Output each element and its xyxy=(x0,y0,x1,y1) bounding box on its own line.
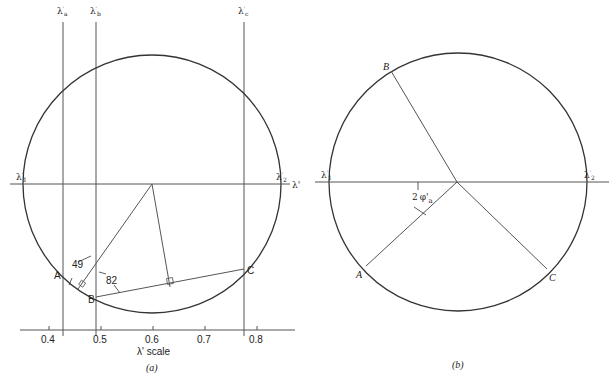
angle-label-2phi-a: 2φ'a xyxy=(412,192,433,205)
radius-line-to-chord xyxy=(78,184,152,289)
point-a-label: A xyxy=(54,270,61,281)
tick-label-0-7: 0.7 xyxy=(197,334,211,345)
label-lambda-a: λ′a xyxy=(57,5,68,17)
point-b-label: B xyxy=(88,294,95,305)
scale-label: λ' scale xyxy=(137,346,170,357)
label-lambda-axis: λ' xyxy=(292,180,300,190)
radius-line-b xyxy=(391,71,457,182)
angle-arrow-bottom xyxy=(414,207,426,215)
label-lambda-b: λ′b xyxy=(90,5,101,17)
radius-line-c xyxy=(457,182,547,269)
caption-a: (a) xyxy=(146,362,158,374)
scale-ticks xyxy=(49,326,257,330)
angle-arrow-82b xyxy=(114,285,120,293)
tick-label-0-6: 0.6 xyxy=(145,334,159,345)
angle-arrow-82 xyxy=(99,272,106,274)
point-b-label-b: B xyxy=(383,61,389,72)
label-lambda-1-a: λ′1 xyxy=(16,171,27,183)
tick-label-0-4: 0.4 xyxy=(41,334,55,345)
diagram-canvas: λ′a λ′b λ′c λ′1 λ′2 λ' A B C 49 82 0.4 0… xyxy=(0,0,609,376)
label-lambda-2-a: λ′2 xyxy=(276,171,287,183)
angle-label-82: 82 xyxy=(106,275,118,286)
angle-label-49: 49 xyxy=(72,259,84,270)
tick-label-0-8: 0.8 xyxy=(249,334,263,345)
point-c-label: C xyxy=(247,265,254,276)
label-lambda-c: λ′c xyxy=(238,5,249,17)
label-lambda-1-b: λ′1 xyxy=(321,169,332,181)
radius-perpendicular-line xyxy=(152,184,170,287)
tick-label-0-5: 0.5 xyxy=(93,334,107,345)
point-c-label-b: C xyxy=(549,272,556,283)
label-lambda-2-b: λ′2 xyxy=(584,169,595,181)
caption-b: (b) xyxy=(452,359,464,371)
point-a-label-b: A xyxy=(355,269,363,280)
figure-b: λ′1 λ′2 2φ'a B A C (b) xyxy=(315,53,609,371)
figure-a: λ′a λ′b λ′c λ′1 λ′2 λ' A B C 49 82 0.4 0… xyxy=(10,5,300,374)
